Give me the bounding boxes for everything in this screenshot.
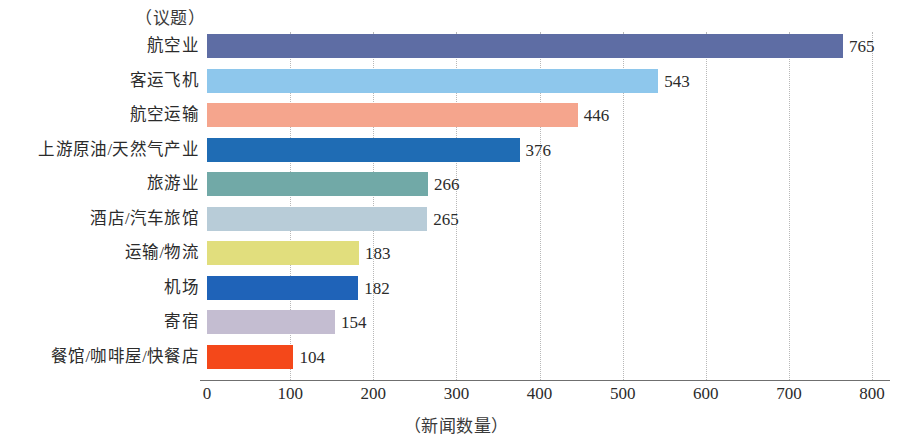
bar-value-label: 182 [358, 276, 390, 300]
bar-value-label: 154 [335, 310, 367, 334]
category-label: 旅游业 [147, 172, 199, 196]
x-tick-label: 700 [776, 384, 802, 404]
category-label: 寄宿 [164, 310, 199, 334]
bar [207, 69, 658, 93]
bar-row: 266 [207, 172, 872, 196]
bar-value-label: 376 [520, 138, 552, 162]
category-label: 运输/物流 [125, 241, 199, 265]
x-axis-tick-labels: 0100200300400500600700800 [0, 384, 912, 410]
x-tick-label: 100 [277, 384, 303, 404]
bar [207, 172, 428, 196]
bar-row: 154 [207, 310, 872, 334]
bar-row: 265 [207, 207, 872, 231]
category-label: 客运飞机 [130, 69, 199, 93]
x-tick-label: 200 [361, 384, 387, 404]
bar-row: 183 [207, 241, 872, 265]
plot-area: 765543446376266265183182154104 [207, 32, 872, 380]
bar-row: 376 [207, 138, 872, 162]
x-tick-label: 500 [610, 384, 636, 404]
bar-value-label: 266 [428, 172, 460, 196]
category-label: 餐馆/咖啡屋/快餐店 [51, 345, 199, 369]
x-tick-label: 0 [203, 384, 212, 404]
gridline-800 [872, 32, 873, 380]
bar [207, 138, 520, 162]
bar [207, 345, 293, 369]
y-axis-caption: （议题） [0, 4, 205, 29]
x-tick-label: 800 [859, 384, 885, 404]
bar-value-label: 183 [359, 241, 391, 265]
bar [207, 34, 843, 58]
category-label: 上游原油/天然气产业 [38, 138, 199, 162]
bar-row: 765 [207, 34, 872, 58]
category-label: 航空业 [147, 34, 199, 58]
bar-value-label: 265 [427, 207, 459, 231]
bar [207, 241, 359, 265]
x-tick-label: 400 [527, 384, 553, 404]
category-label: 航空运输 [130, 103, 199, 127]
x-axis-caption: （新闻数量） [0, 412, 912, 437]
bar [207, 310, 335, 334]
bar-value-label: 765 [843, 34, 875, 58]
bar-value-label: 446 [578, 103, 610, 127]
bar [207, 207, 427, 231]
bar-row: 104 [207, 345, 872, 369]
bar-value-label: 543 [658, 69, 690, 93]
x-tick-label: 600 [693, 384, 719, 404]
bar-row: 543 [207, 69, 872, 93]
x-tick-label: 300 [444, 384, 470, 404]
bar-chart: （议题） 航空业客运飞机航空运输上游原油/天然气产业旅游业酒店/汽车旅馆运输/物… [0, 0, 912, 443]
category-label-column: 航空业客运飞机航空运输上游原油/天然气产业旅游业酒店/汽车旅馆运输/物流机场寄宿… [0, 32, 202, 380]
x-axis-line [200, 380, 890, 381]
bar-value-label: 104 [293, 345, 325, 369]
category-label: 酒店/汽车旅馆 [90, 207, 199, 231]
category-label: 机场 [164, 276, 199, 300]
bar [207, 276, 358, 300]
bar-row: 446 [207, 103, 872, 127]
bar-row: 182 [207, 276, 872, 300]
bar [207, 103, 578, 127]
